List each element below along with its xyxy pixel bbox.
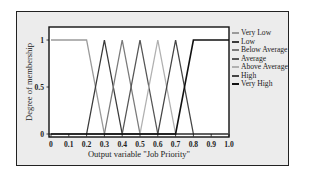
legend-swatch xyxy=(232,49,239,51)
y-axis-label: Degree of membership xyxy=(24,43,34,121)
legend-swatch xyxy=(232,58,239,60)
y-tick-label: 0.5 xyxy=(35,83,45,92)
legend-swatch xyxy=(232,83,239,85)
y-tick-label: 1 xyxy=(40,36,44,45)
x-tick-label: 0.5 xyxy=(135,140,145,149)
x-tick-label: 0.4 xyxy=(117,140,127,149)
y-tick-label: 0 xyxy=(40,130,44,139)
x-tick-label: 1.0 xyxy=(224,140,234,149)
x-axis-label: Output variable "Job Priority" xyxy=(88,149,190,159)
x-tick-label: 0.9 xyxy=(206,140,216,149)
x-tick-label: 0.7 xyxy=(171,140,181,149)
x-tick-label: 0.3 xyxy=(100,140,110,149)
legend-label: Very High xyxy=(241,80,272,89)
x-tick-label: 0 xyxy=(49,140,53,149)
legend-item: Very High xyxy=(232,80,288,89)
x-tick-label: 0.2 xyxy=(82,140,92,149)
x-tick-label: 0.6 xyxy=(153,140,163,149)
legend: Very LowLowBelow AverageAverageAbove Ave… xyxy=(232,29,288,89)
legend-swatch xyxy=(232,75,239,77)
x-tick-label: 0.8 xyxy=(189,140,199,149)
legend-swatch xyxy=(232,66,239,68)
legend-swatch xyxy=(232,32,239,34)
legend-swatch xyxy=(232,41,239,43)
x-tick-label: 0.1 xyxy=(64,140,74,149)
